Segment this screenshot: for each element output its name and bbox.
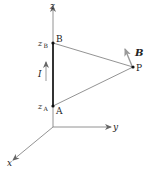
field-label: B [134,47,143,58]
zB-label: z [37,39,43,48]
zA-subscript: A [43,105,49,112]
zA-label: z [37,102,43,111]
point-P-label: P [136,63,142,73]
line-A-to-P [53,67,133,106]
point-A-label: A [55,106,63,116]
field-arrow [125,49,132,66]
x-axis-label: x [7,158,12,168]
z-axis-label: z [49,1,55,11]
x-axis [13,127,53,160]
diagram-canvas: z y x z B B z A A P B I [0,0,157,179]
current-label: I [37,69,42,79]
zB-subscript: B [44,42,49,49]
line-B-to-P [53,43,133,67]
point-B-label: B [56,34,63,44]
y-axis-label: y [112,122,119,132]
point-A [51,104,54,107]
point-B [51,41,54,44]
